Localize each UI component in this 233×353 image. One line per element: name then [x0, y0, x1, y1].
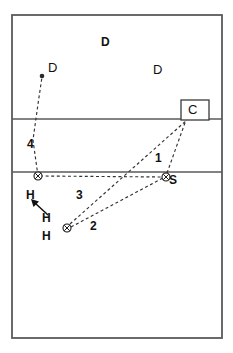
setter-label: S [169, 174, 177, 186]
path-3-number: 3 [76, 189, 83, 201]
path-4-line [33, 77, 42, 176]
volleyball-court-diagram: D D D C S H H H 1 2 3 4 [0, 0, 233, 353]
hitter-arrow-label: H [42, 212, 51, 224]
defender-top-left-marker [40, 74, 45, 79]
path-4-number: 4 [27, 138, 34, 150]
path-2-line [71, 178, 163, 227]
path-2-number: 2 [90, 220, 97, 232]
defender-top-right-label: D [153, 63, 162, 76]
court-graphics [0, 0, 233, 353]
defender-top-left-label: D [48, 61, 57, 74]
court-outline [12, 15, 222, 338]
hitter-left-marker [34, 172, 42, 180]
hitter-center-label: H [42, 230, 51, 242]
hitter-left-label: H [26, 189, 35, 201]
defender-top-center-label: D [101, 36, 110, 48]
path-3-line [40, 176, 163, 177]
path-1-line [167, 120, 186, 173]
coach-label: C [188, 103, 197, 116]
path-1-number: 1 [155, 152, 162, 164]
hitter-center-marker [63, 224, 71, 232]
